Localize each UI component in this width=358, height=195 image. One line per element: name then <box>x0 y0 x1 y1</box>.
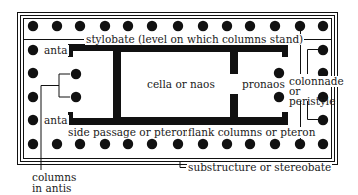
column-in-antis-icon <box>71 69 81 79</box>
column-icon <box>245 21 255 31</box>
column-icon <box>198 139 208 149</box>
column-icon <box>123 139 133 149</box>
column-icon <box>245 139 255 149</box>
column-in-antis-icon <box>274 92 284 102</box>
column-icon <box>28 139 38 149</box>
label-pronaos: pronaos <box>241 79 286 90</box>
column-icon <box>318 115 328 125</box>
label-anta-bottom: anta <box>43 115 69 126</box>
column-icon <box>100 21 110 31</box>
label-stylobate: stylobate (level on which columns stand) <box>85 34 304 45</box>
column-icon <box>28 45 38 55</box>
column-icon <box>270 139 280 149</box>
column-in-antis-icon <box>274 68 284 78</box>
column-icon <box>28 92 38 102</box>
label-substructure: substructure or stereobate <box>187 162 332 173</box>
label-cella: cella or naos <box>146 79 216 90</box>
column-icon <box>147 21 157 31</box>
column-icon <box>100 139 110 149</box>
column-icon <box>222 139 232 149</box>
column-icon <box>28 68 38 78</box>
column-icon <box>75 21 85 31</box>
column-icon <box>147 139 157 149</box>
label-anta-top: anta <box>43 45 69 56</box>
column-icon <box>222 21 232 31</box>
column-icon <box>318 45 328 55</box>
column-icon <box>28 115 38 125</box>
column-icon <box>318 139 328 149</box>
label-colonnade-line3: peristyle <box>288 96 336 107</box>
label-flank-columns: flank columns or pteron <box>187 127 316 138</box>
column-icon <box>173 21 183 31</box>
column-icon <box>75 139 85 149</box>
label-side-passage: side passage or pteroma <box>67 127 200 138</box>
column-icon <box>52 139 62 149</box>
column-icon <box>198 21 208 31</box>
label-columns-in-antis-line2: in antis <box>31 183 72 194</box>
column-icon <box>173 139 183 149</box>
temple-plan-diagram: stylobate (level on which columns stand)… <box>0 0 358 195</box>
column-in-antis-icon <box>71 92 81 102</box>
column-icon <box>52 21 62 31</box>
column-icon <box>318 21 328 31</box>
column-icon <box>123 21 133 31</box>
column-icon <box>28 21 38 31</box>
column-icon <box>270 21 280 31</box>
